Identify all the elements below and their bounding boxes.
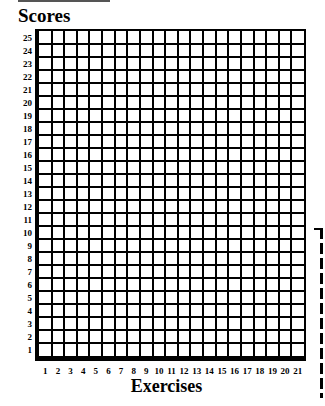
y-tick-label: 23: [14, 59, 32, 69]
y-tick-label: 22: [14, 72, 32, 82]
y-tick-label: 12: [14, 202, 32, 212]
grid-hline: [39, 95, 304, 97]
grid-hline: [39, 212, 304, 214]
grid-hline: [39, 225, 304, 227]
y-tick-label: 10: [14, 228, 32, 238]
y-tick-label: 18: [14, 124, 32, 134]
grid-vline: [202, 31, 204, 356]
grid-vline: [215, 31, 217, 356]
y-tick-label: 20: [14, 98, 32, 108]
grid-vline: [101, 31, 103, 356]
grid-hline: [39, 121, 304, 123]
grid-hline: [39, 82, 304, 84]
grid-vline: [240, 31, 242, 356]
y-tick-label: 3: [14, 319, 32, 329]
y-tick-label: 25: [14, 33, 32, 43]
grid-vline: [253, 31, 255, 356]
grid-hline: [39, 108, 304, 110]
grid-hline: [39, 173, 304, 175]
y-tick-label: 2: [14, 332, 32, 342]
grid-hline: [39, 134, 304, 136]
y-tick-label: 11: [14, 215, 32, 225]
y-tick-label: 7: [14, 267, 32, 277]
grid-hline: [39, 56, 304, 58]
grid-vline: [139, 31, 141, 356]
grid-vline: [152, 31, 154, 356]
grid-hline: [39, 69, 304, 71]
x-axis-title: Exercises: [0, 375, 325, 397]
y-tick-label: 14: [14, 176, 32, 186]
grid-vline: [126, 31, 128, 356]
grid-hline: [39, 147, 304, 149]
grid-hline: [39, 316, 304, 318]
grid-frame: [35, 29, 306, 361]
y-tick-label: 16: [14, 150, 32, 160]
grid-hline: [39, 277, 304, 279]
grid-hline: [39, 238, 304, 240]
y-tick-label: 8: [14, 254, 32, 264]
grid-hline: [39, 329, 304, 331]
grid-vline: [88, 31, 90, 356]
y-tick-label: 5: [14, 293, 32, 303]
grid-hline: [39, 251, 304, 253]
grid-hline: [39, 199, 304, 201]
y-tick-label: 4: [14, 306, 32, 316]
y-tick-label: 1: [14, 345, 32, 355]
grid-vline: [164, 31, 166, 356]
top-rule: [18, 0, 110, 2]
y-tick-label: 6: [14, 280, 32, 290]
grid-hline: [39, 160, 304, 162]
grid-vline: [227, 31, 229, 356]
grid-vline: [76, 31, 78, 356]
grid-hline: [39, 264, 304, 266]
grid-hline: [39, 186, 304, 188]
chart-title: Scores: [18, 5, 70, 27]
grid-vline: [51, 31, 53, 356]
dashed-cut-line: [320, 228, 323, 398]
grid-hline: [39, 290, 304, 292]
grid-vline: [189, 31, 191, 356]
score-grid: [35, 29, 306, 361]
grid-hline: [39, 43, 304, 45]
y-tick-label: 21: [14, 85, 32, 95]
y-tick-label: 13: [14, 189, 32, 199]
grid-vline: [177, 31, 179, 356]
y-tick-label: 19: [14, 111, 32, 121]
grid-hline: [39, 303, 304, 305]
y-tick-label: 24: [14, 46, 32, 56]
grid-hline: [39, 342, 304, 344]
grid-vline: [265, 31, 267, 356]
grid-vline: [290, 31, 292, 356]
y-tick-label: 17: [14, 137, 32, 147]
grid-vline: [278, 31, 280, 356]
y-tick-label: 9: [14, 241, 32, 251]
grid-vline: [63, 31, 65, 356]
y-tick-label: 15: [14, 163, 32, 173]
grid-vline: [114, 31, 116, 356]
